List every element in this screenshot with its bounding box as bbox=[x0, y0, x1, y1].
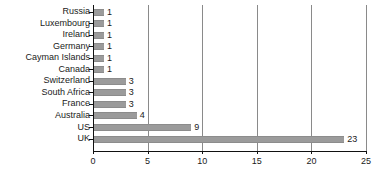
bar-chart: 1111113334923 RussiaLuxembourgIrelandGer… bbox=[0, 0, 385, 178]
bar-us bbox=[93, 124, 191, 131]
bar-value-label: 9 bbox=[194, 122, 199, 133]
y-axis-tick bbox=[89, 127, 93, 128]
y-axis-tick bbox=[89, 23, 93, 24]
bar-row: 1 bbox=[93, 30, 366, 42]
category-label-ireland: Ireland bbox=[2, 29, 90, 40]
x-axis-tick-5 bbox=[148, 151, 149, 154]
bar-row: 1 bbox=[93, 64, 366, 76]
category-label-canada: Canada bbox=[2, 64, 90, 75]
category-label-cayman-islands: Cayman Islands bbox=[2, 52, 90, 63]
bar-value-label: 3 bbox=[129, 76, 134, 87]
x-tick-label-0: 0 bbox=[90, 156, 95, 167]
category-axis-labels: RussiaLuxembourgIrelandGermanyCayman Isl… bbox=[0, 5, 90, 151]
x-axis-line bbox=[93, 151, 367, 152]
bar-value-label: 4 bbox=[140, 110, 145, 121]
bar-row: 9 bbox=[93, 122, 366, 134]
bar-uk bbox=[93, 136, 344, 143]
bar-row: 3 bbox=[93, 76, 366, 88]
category-label-france: France bbox=[2, 98, 90, 109]
bar-row: 4 bbox=[93, 110, 366, 122]
plot-area: 1111113334923 bbox=[93, 5, 366, 151]
gridline-25 bbox=[366, 5, 367, 151]
bar-row: 1 bbox=[93, 53, 366, 65]
bar-ireland bbox=[93, 32, 104, 39]
bar-value-label: 3 bbox=[129, 99, 134, 110]
y-axis-tick bbox=[89, 139, 93, 140]
bar-row: 1 bbox=[93, 18, 366, 30]
bar-row: 1 bbox=[93, 7, 366, 19]
bar-germany bbox=[93, 43, 104, 50]
y-axis-tick bbox=[89, 81, 93, 82]
y-axis-tick bbox=[89, 115, 93, 116]
category-label-luxembourg: Luxembourg bbox=[2, 18, 90, 29]
category-label-us: US bbox=[2, 122, 90, 133]
category-label-switzerland: Switzerland bbox=[2, 75, 90, 86]
y-axis-tick bbox=[89, 58, 93, 59]
bar-row: 3 bbox=[93, 87, 366, 99]
bar-value-label: 1 bbox=[107, 30, 112, 41]
x-axis-tick-10 bbox=[202, 151, 203, 154]
y-axis-line bbox=[93, 5, 94, 151]
x-tick-label-10: 10 bbox=[197, 156, 207, 167]
y-axis-tick bbox=[89, 35, 93, 36]
category-label-australia: Australia bbox=[2, 110, 90, 121]
x-axis-tick-20 bbox=[311, 151, 312, 154]
bar-switzerland bbox=[93, 78, 126, 85]
bar-france bbox=[93, 101, 126, 108]
category-label-uk: UK bbox=[2, 133, 90, 144]
bar-value-label: 1 bbox=[107, 53, 112, 64]
bar-value-label: 23 bbox=[347, 134, 357, 145]
bar-russia bbox=[93, 9, 104, 16]
bar-value-label: 1 bbox=[107, 64, 112, 75]
bar-value-label: 1 bbox=[107, 18, 112, 29]
x-tick-label-25: 25 bbox=[361, 156, 371, 167]
y-axis-tick bbox=[89, 69, 93, 70]
bar-australia bbox=[93, 112, 137, 119]
y-axis-tick bbox=[89, 92, 93, 93]
x-tick-label-20: 20 bbox=[306, 156, 316, 167]
bar-value-label: 3 bbox=[129, 87, 134, 98]
category-label-germany: Germany bbox=[2, 41, 90, 52]
bar-value-label: 1 bbox=[107, 7, 112, 18]
bar-south-africa bbox=[93, 89, 126, 96]
bar-row: 3 bbox=[93, 99, 366, 111]
x-tick-label-5: 5 bbox=[145, 156, 150, 167]
x-axis-tick-25 bbox=[366, 151, 367, 154]
bar-cayman-islands bbox=[93, 55, 104, 62]
bar-row: 1 bbox=[93, 41, 366, 53]
category-label-south-africa: South Africa bbox=[2, 87, 90, 98]
x-axis-tick-0 bbox=[93, 151, 94, 154]
x-axis-tick-15 bbox=[257, 151, 258, 154]
bar-canada bbox=[93, 66, 104, 73]
y-axis-tick bbox=[89, 12, 93, 13]
bar-luxembourg bbox=[93, 20, 104, 27]
x-tick-label-15: 15 bbox=[252, 156, 262, 167]
category-label-russia: Russia bbox=[2, 6, 90, 17]
bar-value-label: 1 bbox=[107, 41, 112, 52]
y-axis-tick bbox=[89, 46, 93, 47]
bar-row: 23 bbox=[93, 134, 366, 146]
y-axis-tick bbox=[89, 104, 93, 105]
